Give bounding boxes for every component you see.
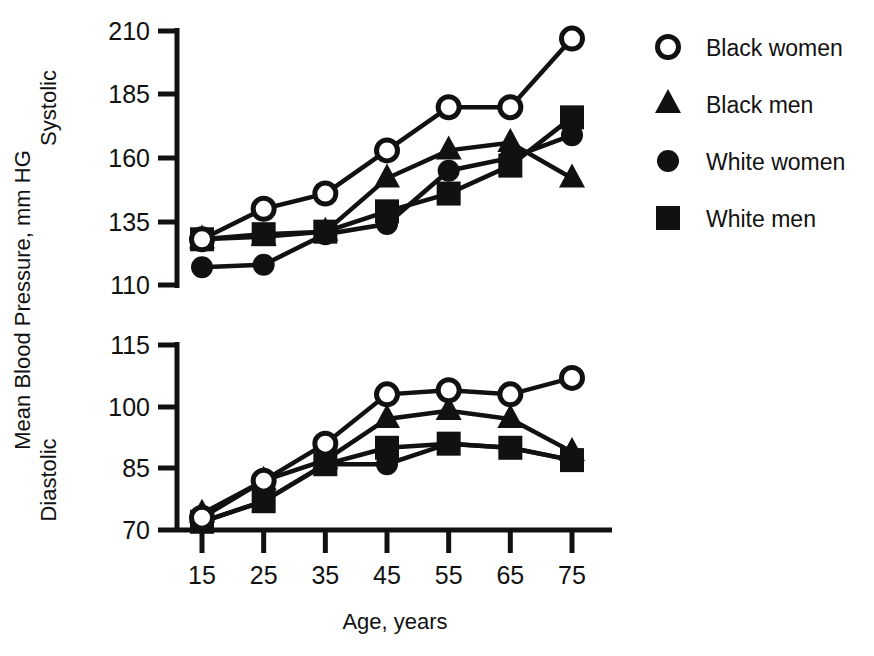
marker-open-circle-diastolic-age-35 xyxy=(315,433,336,454)
diastolic-tick-label-100: 100 xyxy=(108,393,150,421)
systolic-data-layer xyxy=(189,28,585,278)
systolic-panel: 210 185 160 135 110 xyxy=(108,17,585,299)
diastolic-panel: 115 100 85 70 xyxy=(108,331,612,544)
x-tick-label-45: 45 xyxy=(373,561,401,589)
x-tick-label-75: 75 xyxy=(558,561,586,589)
panel-label-diastolic: Diastolic xyxy=(36,438,61,521)
systolic-tick-label-210: 210 xyxy=(108,17,150,45)
systolic-tick-label-135: 135 xyxy=(108,208,150,236)
marker-open-circle-diastolic-age-65 xyxy=(500,384,521,405)
legend-label-white-men: White men xyxy=(706,206,816,232)
marker-open-circle-systolic-age-45 xyxy=(377,140,398,161)
blood-pressure-figure: Systolic Mean Blood Pressure, mm HG Dias… xyxy=(0,0,874,656)
systolic-tick-label-185: 185 xyxy=(108,80,150,108)
x-axis-tick-labels: 15253545556575 xyxy=(188,561,586,589)
systolic-tick-label-160: 160 xyxy=(108,144,150,172)
filled-triangle-icon xyxy=(655,89,681,113)
marker-filled-square-diastolic-age-65 xyxy=(498,436,522,460)
marker-open-circle-systolic-age-15 xyxy=(192,229,213,250)
diastolic-tick-label-70: 70 xyxy=(122,516,150,544)
marker-open-circle-systolic-age-25 xyxy=(253,198,274,219)
x-axis-ticks xyxy=(202,530,572,553)
x-tick-label-55: 55 xyxy=(435,561,463,589)
x-tick-label-25: 25 xyxy=(250,561,278,589)
diastolic-data-layer xyxy=(189,367,585,533)
x-tick-label-15: 15 xyxy=(188,561,216,589)
systolic-tick-label-110: 110 xyxy=(110,271,150,299)
marker-open-circle-systolic-age-55 xyxy=(438,97,459,118)
marker-filled-square-systolic-age-35 xyxy=(313,220,337,244)
open-circle-icon xyxy=(658,37,679,58)
marker-filled-circle-systolic-age-55 xyxy=(438,160,460,182)
marker-filled-square-diastolic-age-75 xyxy=(560,448,584,472)
marker-filled-square-diastolic-age-55 xyxy=(437,432,461,456)
marker-open-circle-systolic-age-35 xyxy=(315,183,336,204)
marker-filled-square-systolic-age-55 xyxy=(437,182,461,206)
marker-filled-square-diastolic-age-45 xyxy=(375,436,399,460)
legend-label-black-women: Black women xyxy=(706,35,843,61)
marker-filled-square-systolic-age-25 xyxy=(252,222,276,246)
marker-open-circle-diastolic-age-25 xyxy=(253,470,274,491)
marker-filled-square-systolic-age-65 xyxy=(498,154,522,178)
marker-open-circle-diastolic-age-45 xyxy=(377,384,398,405)
x-tick-label-35: 35 xyxy=(311,561,339,589)
marker-open-circle-systolic-age-65 xyxy=(500,97,521,118)
y-axis-title: Mean Blood Pressure, mm HG xyxy=(10,150,35,450)
marker-open-circle-systolic-age-75 xyxy=(562,28,583,49)
filled-square-icon xyxy=(656,206,680,230)
diastolic-tick-label-115: 115 xyxy=(110,331,150,359)
marker-filled-square-systolic-age-45 xyxy=(375,199,399,223)
marker-filled-circle-systolic-age-15 xyxy=(191,256,213,278)
marker-open-circle-diastolic-age-55 xyxy=(438,380,459,401)
legend-label-white-women: White women xyxy=(706,149,845,175)
marker-filled-circle-systolic-age-25 xyxy=(253,254,275,276)
legend-label-black-men: Black men xyxy=(706,92,813,118)
legend: Black womenBlack menWhite womenWhite men xyxy=(655,35,845,232)
x-tick-label-65: 65 xyxy=(496,561,524,589)
x-axis-title: Age, years xyxy=(342,609,447,634)
chart-svg: Systolic Mean Blood Pressure, mm HG Dias… xyxy=(0,0,874,656)
marker-filled-square-systolic-age-75 xyxy=(560,105,584,129)
panel-label-systolic: Systolic xyxy=(36,70,61,146)
marker-open-circle-diastolic-age-75 xyxy=(562,367,583,388)
marker-open-circle-diastolic-age-15 xyxy=(192,507,213,528)
filled-circle-icon xyxy=(657,150,679,172)
diastolic-tick-label-85: 85 xyxy=(122,454,150,482)
